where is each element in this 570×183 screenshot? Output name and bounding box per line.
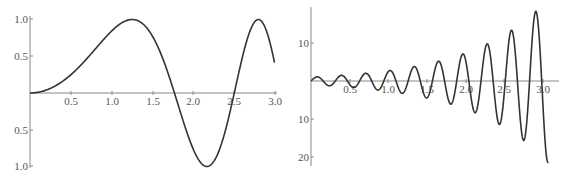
left-x-tick-label: 1.5 xyxy=(146,95,160,107)
left-x-tick-label: 3.0 xyxy=(268,95,282,107)
left-plot: 0.5 1.0 1.5 2.0 2.5 3.0 1.0 0.5 0.5 1.0 xyxy=(14,13,282,172)
right-y-tick-label: 10 xyxy=(298,113,310,125)
right-plot: 0.5 1.0 1.5 2.0 2.5 3.0 10 10 20 xyxy=(298,7,559,166)
left-y-tick-label: 1.0 xyxy=(14,13,28,25)
left-y-tick-label: 1.0 xyxy=(14,160,28,172)
left-x-tick-label: 1.0 xyxy=(105,95,119,107)
right-y-tick-label: 20 xyxy=(298,151,310,163)
left-x-tick-label: 0.5 xyxy=(64,95,78,107)
right-x-tick-label: 3.0 xyxy=(536,83,550,95)
left-x-tick-label: 2.0 xyxy=(186,95,200,107)
figure: 0.5 1.0 1.5 2.0 2.5 3.0 1.0 0.5 0.5 1.0 xyxy=(0,0,570,183)
right-y-tick-label: 10 xyxy=(298,37,310,49)
right-x-tick-label: 1.0 xyxy=(381,83,395,95)
left-y-tick-label: 0.5 xyxy=(14,50,28,62)
right-y-ticks: 10 10 20 xyxy=(298,37,314,163)
left-y-tick-label: 0.5 xyxy=(14,124,28,136)
